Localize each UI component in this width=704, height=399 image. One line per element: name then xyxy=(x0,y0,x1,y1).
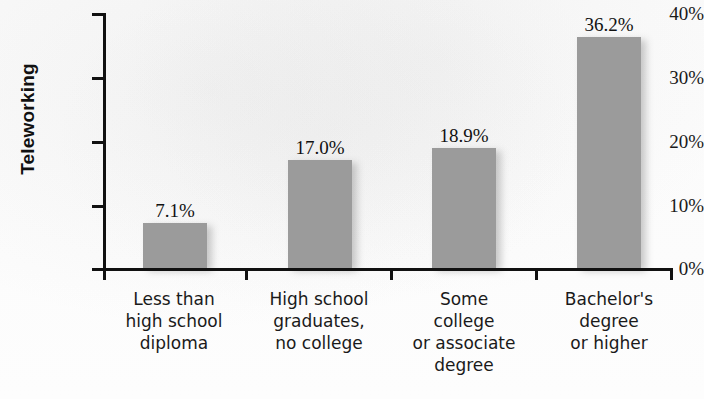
y-axis-title: Teleworking xyxy=(17,39,39,199)
bar-some-college xyxy=(432,148,496,268)
chart-figure: Teleworking 40% 30% 20% 10% 0% 7.1% 17.0… xyxy=(0,0,704,399)
category-label-line: diploma xyxy=(103,332,245,354)
category-label-less-than-high-school: Less than high school diploma xyxy=(103,288,245,354)
y-tick-label-20: 20% xyxy=(642,131,704,153)
category-label-bachelors-degree: Bachelor's degree or higher xyxy=(538,288,680,354)
category-label-line: degree xyxy=(393,354,535,376)
category-label-line: or associate xyxy=(393,332,535,354)
x-divider-3 xyxy=(535,268,538,280)
x-divider-1 xyxy=(245,268,248,280)
y-tick-30 xyxy=(92,77,104,80)
category-label-line: high school xyxy=(103,310,245,332)
category-label-line: Less than xyxy=(103,288,245,310)
bar-value-some-college: 18.9% xyxy=(414,125,514,147)
bar-value-high-school-graduates: 17.0% xyxy=(270,137,370,159)
y-tick-40 xyxy=(92,13,104,16)
bar-value-bachelors-degree: 36.2% xyxy=(559,14,659,36)
category-label-line: or higher xyxy=(538,332,680,354)
x-divider-2 xyxy=(390,268,393,280)
y-tick-label-30: 30% xyxy=(642,67,704,89)
category-label-line: no college xyxy=(248,332,390,354)
x-axis-line xyxy=(103,268,673,271)
x-axis-start-cap xyxy=(103,268,106,280)
category-label-line: degree xyxy=(538,310,680,332)
bar-less-than-high-school xyxy=(143,223,207,268)
y-tick-20 xyxy=(92,141,104,144)
category-label-high-school-graduates: High school graduates, no college xyxy=(248,288,390,354)
category-label-line: graduates, xyxy=(248,310,390,332)
x-axis-end-cap xyxy=(670,268,673,280)
category-label-line: Bachelor's xyxy=(538,288,680,310)
y-tick-label-10: 10% xyxy=(642,195,704,217)
bar-high-school-graduates xyxy=(288,160,352,268)
bar-value-less-than-high-school: 7.1% xyxy=(125,200,225,222)
bar-bachelors-degree xyxy=(577,37,641,268)
category-label-some-college: Some college or associate degree xyxy=(393,288,535,376)
category-label-line: Some xyxy=(393,288,535,310)
y-tick-10 xyxy=(92,205,104,208)
category-label-line: college xyxy=(393,310,535,332)
category-label-line: High school xyxy=(248,288,390,310)
